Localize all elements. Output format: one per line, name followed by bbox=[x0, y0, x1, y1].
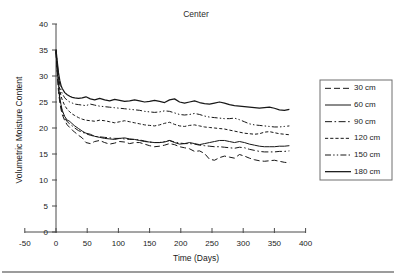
x-tick-label: 200 bbox=[174, 239, 188, 248]
x-tick-label: 100 bbox=[112, 239, 126, 248]
chart-title-group: Center bbox=[183, 9, 209, 19]
legend-label-90-cm: 90 cm bbox=[354, 117, 376, 126]
x-tick-label: 0 bbox=[54, 239, 59, 248]
y-tick-label: 20 bbox=[39, 124, 48, 133]
y-tick-label: 15 bbox=[39, 150, 48, 159]
legend-box bbox=[320, 80, 392, 180]
data-series-group bbox=[56, 49, 289, 162]
x-tick-label: 250 bbox=[205, 239, 219, 248]
legend-label-150-cm: 150 cm bbox=[354, 150, 381, 159]
y-axis-title: Volumetric Moisture Content bbox=[14, 76, 24, 183]
x-tick-label: 150 bbox=[143, 239, 157, 248]
chart-title: Center bbox=[183, 9, 209, 19]
y-tick-label: 0 bbox=[44, 228, 49, 237]
x-tick-label: 400 bbox=[299, 239, 313, 248]
series-line-120-cm bbox=[56, 51, 289, 135]
y-tick-label: 10 bbox=[39, 176, 48, 185]
legend-label-30-cm: 30 cm bbox=[354, 83, 376, 92]
y-tick-label: 25 bbox=[39, 98, 48, 107]
y-tick-label: 30 bbox=[39, 72, 48, 81]
y-tick-label: 35 bbox=[39, 46, 48, 55]
x-tick-label: 50 bbox=[83, 239, 92, 248]
series-line-150-cm bbox=[56, 50, 289, 127]
legend-label-120-cm: 120 cm bbox=[354, 133, 381, 142]
x-tick-label: 300 bbox=[237, 239, 251, 248]
series-line-90-cm bbox=[56, 52, 289, 152]
y-tick-label: 5 bbox=[44, 202, 49, 211]
axes-group bbox=[25, 24, 306, 233]
legend-label-60-cm: 60 cm bbox=[354, 100, 376, 109]
legend-label-180-cm: 180 cm bbox=[354, 167, 381, 176]
chart-figure: Center -50050100150200250300350400051015… bbox=[0, 0, 396, 278]
chart-legend: 30 cm60 cm90 cm120 cm150 cm180 cm bbox=[320, 80, 392, 180]
center-moisture-line-chart: Center -50050100150200250300350400051015… bbox=[0, 0, 396, 278]
x-tick-label: 350 bbox=[268, 239, 282, 248]
series-line-180-cm bbox=[56, 49, 289, 110]
tick-labels-group: -500501001502002503003504000510152025303… bbox=[19, 20, 313, 248]
x-tick-label: -50 bbox=[19, 239, 31, 248]
x-axis-title: Time (Days) bbox=[173, 253, 219, 263]
y-tick-label: 40 bbox=[39, 20, 48, 29]
